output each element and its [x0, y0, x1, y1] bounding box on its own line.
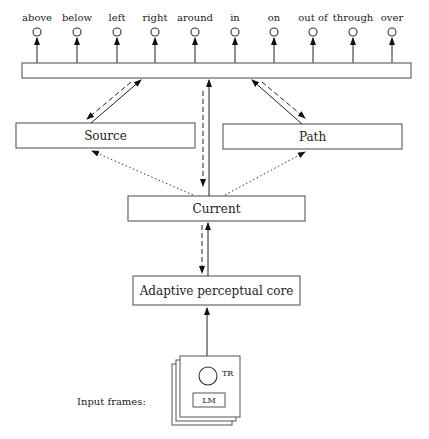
- current-label: Current: [192, 202, 240, 216]
- output-node-icon: [231, 28, 239, 36]
- output-unit-over: over: [381, 12, 404, 63]
- output-unit-through: through: [333, 12, 374, 63]
- output-node-icon: [73, 28, 81, 36]
- output-node-icon: [113, 28, 121, 36]
- input-frames-stack: TR LM: [172, 356, 240, 425]
- output-unit-label: over: [381, 12, 404, 23]
- output-unit-label: below: [62, 12, 93, 23]
- output-unit-on: on: [268, 12, 281, 63]
- adaptive-core-label: Adaptive perceptual core: [139, 284, 294, 298]
- output-unit-label: left: [109, 12, 126, 23]
- adaptive-core-box: Adaptive perceptual core: [133, 276, 300, 305]
- output-unit-label: on: [268, 12, 281, 23]
- output-node-icon: [309, 28, 317, 36]
- output-unit-label: in: [230, 12, 240, 23]
- source-label: Source: [84, 129, 127, 143]
- output-unit-above: above: [22, 12, 52, 63]
- output-node-icon: [270, 28, 278, 36]
- output-unit-left: left: [109, 12, 126, 63]
- path-box: Path: [223, 124, 402, 149]
- front-frame: [180, 356, 240, 417]
- output-unit-right: right: [143, 12, 168, 63]
- output-unit-in: in: [230, 12, 240, 63]
- output-node-icon: [349, 28, 357, 36]
- output-units: abovebelowleftrightaroundinonout ofthrou…: [22, 12, 403, 63]
- output-node-icon: [191, 28, 199, 36]
- output-node-icon: [388, 28, 396, 36]
- path-label: Path: [299, 130, 327, 144]
- output-unit-label: out of: [298, 12, 329, 23]
- output-unit-below: below: [62, 12, 93, 63]
- source-to-bar-arrow: [91, 80, 141, 123]
- current-to-path-dotted-arrow: [225, 152, 305, 195]
- output-node-icon: [33, 28, 41, 36]
- trajector-label: TR: [222, 369, 234, 378]
- landmark-label: LM: [202, 396, 216, 405]
- diagram-canvas: abovebelowleftrightaroundinonout ofthrou…: [0, 0, 429, 439]
- output-unit-label: right: [143, 12, 168, 23]
- output-unit-label: above: [22, 12, 52, 23]
- output-node-icon: [151, 28, 159, 36]
- trajector-circle: [199, 367, 217, 385]
- output-unit-label: through: [333, 12, 374, 23]
- current-to-source-dotted-arrow: [92, 151, 193, 195]
- bar-to-source-dashed-arrow: [87, 82, 131, 119]
- input-frames-label: Input frames:: [77, 396, 146, 407]
- output-layer-bar: [22, 63, 411, 78]
- output-unit-label: around: [177, 12, 214, 23]
- source-box: Source: [16, 123, 195, 148]
- path-to-bar-arrow: [252, 80, 302, 124]
- bar-to-path-dashed-arrow: [262, 82, 305, 118]
- output-unit-out-of: out of: [298, 12, 329, 63]
- output-unit-around: around: [177, 12, 214, 63]
- current-box: Current: [128, 196, 305, 221]
